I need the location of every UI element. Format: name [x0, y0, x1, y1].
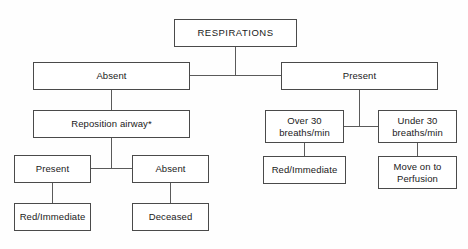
edge-over-under-bar	[343, 126, 379, 127]
node-over-30-breaths-label: Over 30 breaths/min	[277, 115, 332, 139]
edge-respirations-down	[235, 46, 236, 76]
node-reposition-airway-label: Reposition airway*	[69, 118, 153, 130]
node-absent-after-reposition[interactable]: Absent	[132, 155, 209, 183]
node-move-on-to-perfusion[interactable]: Move on to Perfusion	[378, 156, 457, 189]
edge-present-down	[359, 89, 360, 127]
edge-over30-to-red-immediate	[304, 143, 305, 156]
node-under-30-breaths-label: Under 30 breaths/min	[390, 115, 445, 139]
edge-reposition-down	[111, 137, 112, 169]
edge-under30-to-perfusion	[417, 143, 418, 156]
node-over-30-breaths[interactable]: Over 30 breaths/min	[265, 110, 344, 143]
node-under-30-breaths[interactable]: Under 30 breaths/min	[378, 110, 457, 143]
node-reposition-airway[interactable]: Reposition airway*	[33, 110, 190, 138]
node-present-after-reposition-label: Present	[34, 163, 71, 175]
edge-present-absent-bar	[90, 168, 133, 169]
node-deceased-label: Deceased	[147, 211, 195, 223]
node-respirations-label: RESPIRATIONS	[195, 27, 275, 39]
node-present-top-label: Present	[341, 70, 378, 82]
node-red-immediate-right-label: Red/Immediate	[270, 164, 340, 176]
node-red-immediate-left[interactable]: Red/Immediate	[14, 203, 91, 231]
node-absent-after-reposition-label: Absent	[153, 163, 187, 175]
node-present-top[interactable]: Present	[281, 62, 438, 90]
node-move-on-to-perfusion-label: Move on to Perfusion	[392, 161, 444, 185]
node-absent-top[interactable]: Absent	[33, 62, 190, 90]
edge-absent-to-deceased	[170, 182, 171, 204]
node-red-immediate-right[interactable]: Red/Immediate	[263, 156, 346, 184]
node-absent-top-label: Absent	[94, 70, 128, 82]
node-present-after-reposition[interactable]: Present	[14, 155, 91, 183]
edge-absent-present-bar	[190, 75, 282, 76]
flowchart-canvas: RESPIRATIONS Absent Present Reposition a…	[0, 0, 468, 249]
node-red-immediate-left-label: Red/Immediate	[18, 211, 88, 223]
node-deceased[interactable]: Deceased	[132, 203, 209, 231]
edge-present-to-red-immediate	[52, 182, 53, 204]
edge-absent-to-reposition	[111, 89, 112, 111]
node-respirations[interactable]: RESPIRATIONS	[174, 19, 297, 47]
